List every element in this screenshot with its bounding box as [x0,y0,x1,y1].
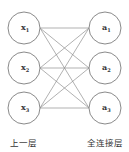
node-x3: x3 [8,92,40,124]
network-diagram: x1x2x3a1a2a3 [0,0,129,152]
node-x1: x1 [8,12,40,44]
input-layer-label: 上一层 [10,136,37,148]
fc-layer-label: 全连接层 [87,136,123,148]
node-x2: x2 [8,52,40,84]
node-a1: a1 [89,12,121,44]
node-a2: a2 [89,52,121,84]
connection-lines [40,28,89,108]
node-a3: a3 [89,92,121,124]
